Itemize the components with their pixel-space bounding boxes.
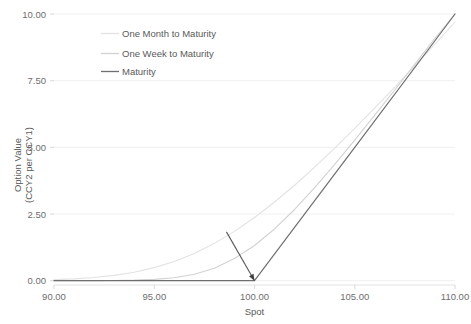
chart-background — [0, 0, 471, 324]
y-axis-title: Option Value (CCY2 per CCY1) — [12, 127, 34, 203]
legend-label: One Week to Maturity — [122, 48, 214, 59]
x-tick-label: 100.00 — [240, 291, 269, 302]
legend-label: Maturity — [122, 66, 156, 77]
x-tick-label: 110.00 — [441, 291, 469, 302]
x-tick-label: 90.00 — [42, 291, 66, 302]
y-axis-title-line2: (CCY2 per CCY1) — [23, 127, 34, 203]
legend-label: One Month to Maturity — [122, 28, 216, 39]
y-tick-label: 7.50 — [28, 75, 47, 86]
chart-figure: 10.00 7.50 5.00 2.50 0.00 90.00 95.00 10… — [0, 0, 471, 324]
y-axis-title-line1: Option Value — [12, 138, 23, 192]
option-value-line-chart: 10.00 7.50 5.00 2.50 0.00 90.00 95.00 10… — [0, 0, 471, 324]
x-axis-title: Spot — [245, 306, 265, 317]
y-tick-label: 0.00 — [28, 275, 47, 286]
y-tick-label: 10.00 — [22, 9, 46, 20]
y-tick-label: 2.50 — [28, 209, 47, 220]
x-tick-label: 105.00 — [340, 291, 369, 302]
x-tick-label: 95.00 — [142, 291, 166, 302]
